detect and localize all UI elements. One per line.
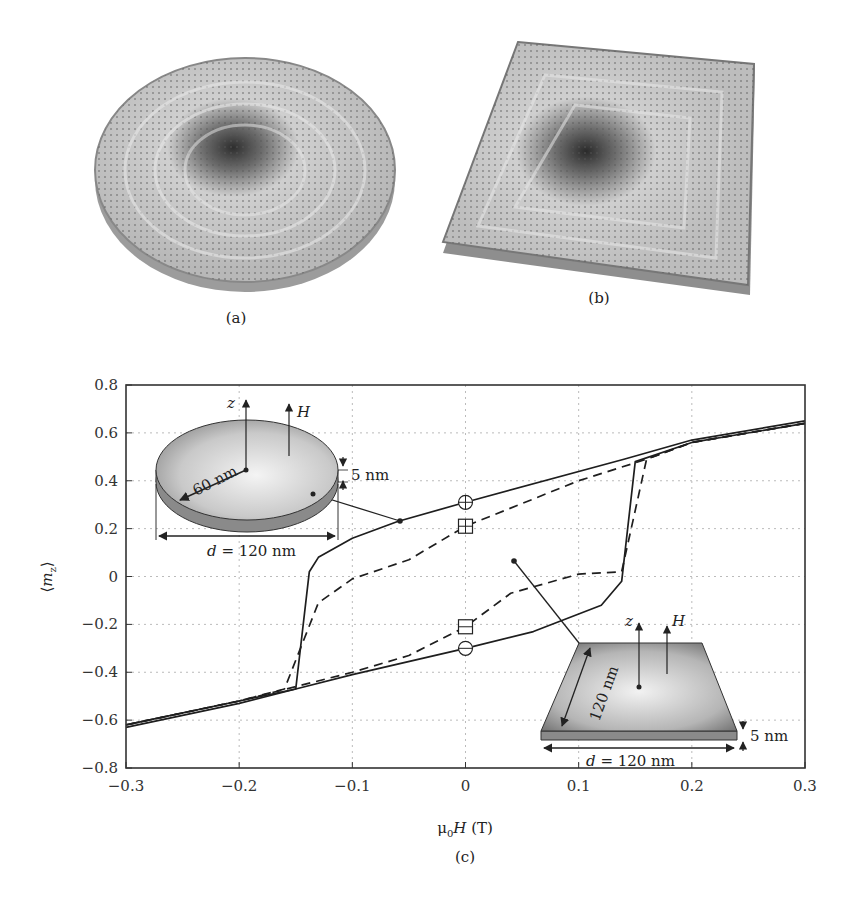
- square-inset: z H 120 nm d = 120 nm 5 nm: [511, 558, 788, 770]
- square-inset-pointer-line: [514, 561, 579, 643]
- panel-label-a: (a): [226, 309, 247, 327]
- y-tick-label: 0: [108, 568, 118, 586]
- y-tick-label: −0.2: [82, 615, 118, 633]
- y-tick-label: 0.8: [94, 376, 118, 394]
- disk-inset-z-label: z: [226, 394, 235, 412]
- square-inset-z-label: z: [624, 612, 633, 630]
- square-inset-H-label: H: [671, 612, 686, 630]
- x-tick-label: −0.3: [108, 777, 144, 795]
- x-axis-label: μ0H (T): [437, 819, 493, 839]
- y-tick-label: −0.4: [82, 663, 118, 681]
- x-tick-label: 0.2: [680, 777, 704, 795]
- x-tick-label: 0.1: [567, 777, 591, 795]
- y-axis-label: ⟨mz⟩: [38, 561, 58, 592]
- hysteresis-chart: −0.3−0.2−0.100.10.20.3−0.8−0.6−0.4−0.200…: [38, 376, 817, 866]
- square-plus-marker-icon: [459, 519, 473, 533]
- x-tick-label: 0.3: [793, 777, 817, 795]
- disk-inset-diameter-label: d = 120 nm: [207, 542, 296, 560]
- circle-plus-marker-icon: [459, 495, 473, 509]
- square-minus-marker-icon: [459, 620, 473, 634]
- x-tick-label: 0: [461, 777, 471, 795]
- disk-inset-H-label: H: [296, 403, 311, 421]
- panel-label-b: (b): [588, 289, 609, 307]
- figure-canvas: (a) (b) −0.3−0.2−0.100.10.20.3−0.8−0.6−0…: [0, 0, 855, 910]
- panel-label-c: (c): [455, 848, 475, 866]
- panel-b-square-vortex: [443, 42, 755, 295]
- x-tick-label: −0.2: [221, 777, 257, 795]
- y-tick-label: 0.2: [94, 520, 118, 538]
- y-tick-label: 0.4: [94, 472, 118, 490]
- y-tick-label: −0.6: [82, 711, 118, 729]
- disk-inset-thickness-label: 5 nm: [351, 466, 389, 484]
- panel-a-disk-vortex: [95, 58, 395, 292]
- x-tick-label: −0.1: [334, 777, 370, 795]
- disk-inset: z H 60 nm d = 120 nm 5 nm: [156, 394, 403, 560]
- remanence-markers: [459, 495, 473, 655]
- y-tick-label: 0.6: [94, 424, 118, 442]
- y-tick-label: −0.8: [82, 759, 118, 777]
- square-inset-thickness-label: 5 nm: [750, 727, 788, 745]
- circle-minus-marker-icon: [459, 641, 473, 655]
